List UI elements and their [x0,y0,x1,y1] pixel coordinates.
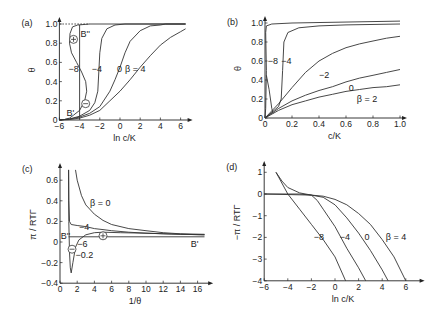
y-tick-label: 0 [53,115,58,125]
y-tick-label: −3 [252,254,262,264]
panel-label: (a) [21,18,32,28]
y-tick-label: 0.4 [251,75,263,85]
y-tick-label: −2 [252,232,262,242]
x-tick-label: 6 [403,282,408,292]
y-tick-label: 1.0 [251,18,263,28]
x-tick-label: 1.0 [394,119,406,129]
x-tick-label: 6 [109,284,114,294]
y-tick-label: −1 [252,211,262,221]
x-tick-label: 0.4 [313,119,325,129]
y-tick-label: 0.6 [46,57,58,67]
x-tick-label: 0 [58,284,63,294]
y-tick-label: 0.8 [46,38,58,48]
panel-d: −6−4−20246−4−3−2−101(d)β = −8β = −4β = 0… [226,161,424,304]
y-axis-label: π / RTΓ [28,209,38,240]
y-tick-label: 1.0 [46,19,58,29]
y-arrow-icon [262,161,266,166]
y-tick-label: 0 [257,189,262,199]
panel-b: 00.20.40.60.81.000.20.40.60.81.0(b)β = −… [227,16,407,141]
curve-annotation: −8 [68,64,78,74]
figure: −6−4−2024600.20.40.60.81.0(a)β = −8β = −… [0,0,441,329]
x-tick-label: 4 [92,284,97,294]
series-line: β = −8 spike [266,75,273,113]
y-tick-label: 1 [257,167,262,177]
x-axis-label: ln c/K [332,294,355,304]
x-tick-label: 4 [380,282,385,292]
y-axis-label: θ [233,66,243,71]
y-tick-label: 0.4 [46,196,58,206]
x-arrow-icon [188,118,193,122]
x-arrow-icon [420,279,425,283]
x-tick-label: 0.6 [340,119,352,129]
curve-annotation: −2 [319,70,329,80]
y-tick-label: 0.6 [46,175,58,185]
x-tick-label: −2 [95,121,105,131]
curve-annotation: −8 [268,56,278,66]
x-tick-label: −4 [283,282,293,292]
curve-annotation: β = 4 [386,232,406,242]
curve-annotation: B' [191,239,199,249]
x-tick-label: −4 [75,121,85,131]
x-tick-label: −2 [307,282,317,292]
series-line: β = 4 [59,29,185,120]
x-axis-label: c/K [328,131,341,141]
x-tick-label: 0.2 [286,119,298,129]
x-tick-label: 2 [75,284,80,294]
x-tick-label: 14 [176,284,186,294]
y-tick-label: 0 [53,237,58,247]
y-tick-label: 0.2 [251,94,263,104]
y-arrow-icon [263,16,267,21]
panel-label: (c) [22,164,33,174]
curve-annotation: −4 [92,64,102,74]
curve-annotation: −8 [314,232,324,242]
curve-annotation: B'' [61,231,71,241]
curve-annotation: 0 [349,83,354,93]
curve-annotation: B'' [81,29,91,39]
y-arrow-icon [57,17,61,22]
y-tick-label: 0.2 [46,96,58,106]
x-axis-label: ln c/K [113,133,136,143]
x-tick-label: 0 [118,121,123,131]
y-tick-label: 0.8 [251,37,263,47]
x-tick-label: 6 [178,121,183,131]
x-tick-label: 8 [126,284,131,294]
curve-annotation: β = 4 [125,64,145,74]
x-arrow-icon [208,281,213,285]
curve-annotation: β = 2 [357,94,377,104]
x-tick-label: 0 [333,282,338,292]
y-tick-label: 0.6 [251,56,263,66]
curve-annotation: β = 0 [90,198,110,208]
panel-label: (b) [227,17,238,27]
y-tick-label: −0.4 [41,278,58,288]
x-tick-label: 2 [138,121,143,131]
series-line: β = −8 [265,21,400,118]
x-tick-label: 16 [193,284,203,294]
y-arrow-icon [58,163,62,168]
panel-c: 0246810121416−0.4−0.200.20.40.6(c)β = 0β… [22,163,213,306]
series-line: β = −4 [265,24,400,118]
curve-annotation: −4 [79,222,89,232]
curve-annotation: B' [66,108,74,118]
series-line: β = 4 [276,172,406,280]
x-tick-label: 0.8 [367,119,379,129]
x-tick-label: 12 [158,284,168,294]
series-line: β = −2 [265,36,400,118]
curve-annotation: −6 [77,239,87,249]
x-tick-label: 10 [141,284,151,294]
y-tick-label: −0.2 [41,258,58,268]
curve-annotation: −4 [281,56,291,66]
y-tick-label: 0.2 [46,216,58,226]
y-tick-label: 0 [258,113,263,123]
x-axis-label: 1/θ [129,296,142,306]
panel-a: −6−4−2024600.20.40.60.81.0(a)β = −8β = −… [21,17,192,143]
y-axis-label: θ [27,67,37,72]
x-tick-label: 0 [263,119,268,129]
curve-annotation: −0.2 [75,250,93,260]
curve-annotation: −4 [340,232,350,242]
panel-label: (d) [226,162,237,172]
curve-annotation: 0 [365,232,370,242]
x-tick-label: 4 [158,121,163,131]
series-line: β = 0 [265,70,400,119]
y-axis-label: −π / RTΓ [232,204,242,240]
curve-annotation: 0 [117,64,122,74]
